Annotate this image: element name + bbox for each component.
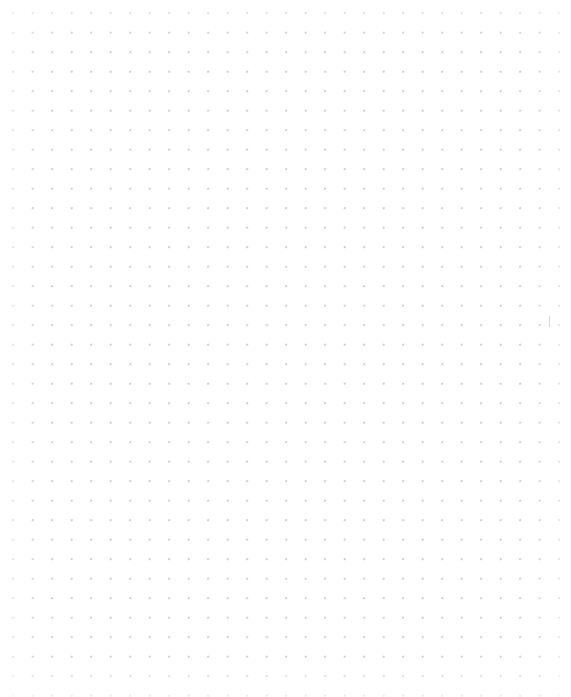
dot-grid-background — [0, 0, 571, 697]
dot-grid-canvas[interactable] — [0, 0, 571, 697]
